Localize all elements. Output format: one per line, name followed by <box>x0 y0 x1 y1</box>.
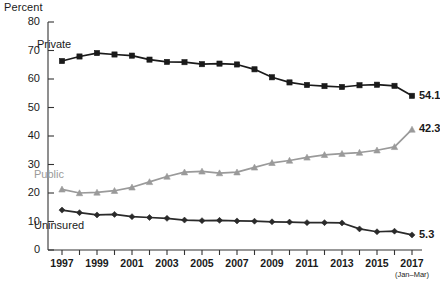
data-point-uninsured <box>392 228 398 234</box>
data-point-private <box>269 75 274 80</box>
data-point-uninsured <box>217 217 223 223</box>
data-point-private <box>252 67 257 72</box>
data-point-uninsured <box>182 217 188 223</box>
data-point-uninsured <box>112 211 118 217</box>
data-point-uninsured <box>357 226 363 232</box>
data-point-public <box>409 126 415 132</box>
y-axis-tick-label: 50 <box>14 101 40 113</box>
end-value-uninsured: 5.3 <box>419 228 434 240</box>
y-axis-tick-label: 60 <box>14 72 40 84</box>
series-label-private: Private <box>37 38 71 50</box>
data-point-uninsured <box>304 220 310 226</box>
y-axis-tick-label: 40 <box>14 129 40 141</box>
end-value-private: 54.1 <box>419 89 440 101</box>
data-point-private <box>59 58 64 63</box>
data-point-private <box>94 50 99 55</box>
data-point-private <box>77 54 82 59</box>
series-label-uninsured: Uninsured <box>34 219 84 231</box>
data-point-private <box>217 61 222 66</box>
y-axis-tick-label: 20 <box>14 186 40 198</box>
data-point-private <box>392 83 397 88</box>
data-point-uninsured <box>252 218 258 224</box>
data-point-private <box>304 82 309 87</box>
data-point-private <box>374 82 379 87</box>
data-point-private <box>199 62 204 67</box>
data-point-uninsured <box>374 229 380 235</box>
data-point-uninsured <box>322 220 328 226</box>
series-line-private <box>62 53 412 96</box>
data-point-uninsured <box>269 219 275 225</box>
data-point-private <box>357 83 362 88</box>
data-point-uninsured <box>164 215 170 221</box>
data-point-uninsured <box>409 232 415 238</box>
data-point-private <box>112 52 117 57</box>
data-point-uninsured <box>147 215 153 221</box>
data-point-private <box>234 62 239 67</box>
y-axis-tick-label: 0 <box>14 243 40 255</box>
data-point-private <box>409 93 414 98</box>
x-axis-tick-label: 2017 <box>387 257 437 269</box>
data-point-uninsured <box>339 220 345 226</box>
data-point-uninsured <box>234 218 240 224</box>
end-value-public: 42.3 <box>419 122 440 134</box>
data-point-uninsured <box>287 219 293 225</box>
data-point-private <box>322 84 327 89</box>
series-label-public: Public <box>34 168 64 180</box>
data-point-private <box>147 57 152 62</box>
data-point-uninsured <box>59 207 65 213</box>
x-axis-tick-sublabel: (Jan–Mar) <box>387 270 437 279</box>
y-axis-tick-label: 80 <box>14 15 40 27</box>
series-line-public <box>62 129 412 193</box>
data-point-private <box>164 59 169 64</box>
data-point-private <box>339 84 344 89</box>
data-point-private <box>182 60 187 65</box>
data-point-uninsured <box>77 210 83 216</box>
chart-container: Percent 01020304050607080 19971999200120… <box>0 0 440 281</box>
data-point-uninsured <box>199 218 205 224</box>
data-point-uninsured <box>129 214 135 220</box>
data-point-private <box>129 53 134 58</box>
data-point-private <box>287 80 292 85</box>
data-point-uninsured <box>94 212 100 218</box>
